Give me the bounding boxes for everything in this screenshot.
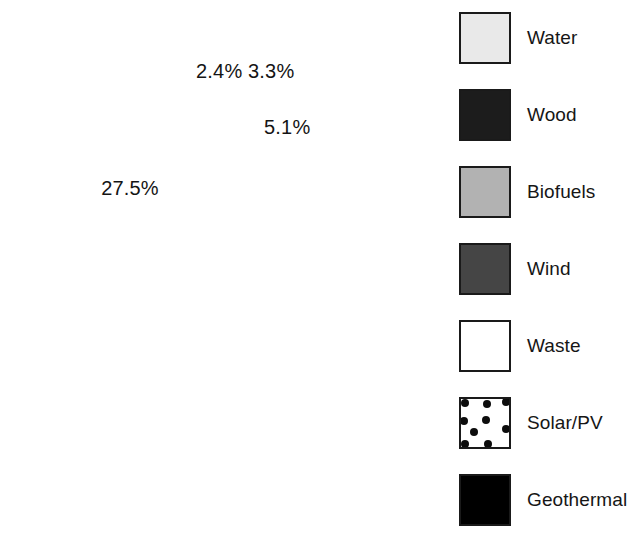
slice-value-wind: 17.2% [271,207,329,229]
legend-label-biofuels: Biofuels [527,181,595,203]
legend-swatch-water [459,12,511,64]
slice-value-biofuels: 21.5% [243,340,301,362]
legend-swatch-biofuels [459,166,511,218]
legend-label-geothermal: Geothermal [527,489,627,511]
legend-item-geothermal[interactable]: Geothermal [459,472,627,528]
legend-item-biofuels[interactable]: Biofuels [459,164,595,220]
pie-plot-area: 17.2%21.5%23.0%27.5% 2.4%3.3%5.1% [0,0,440,556]
legend-swatch-wood [459,89,511,141]
slice-value-solar-pv: 3.3% [248,60,294,83]
legend-swatch-waste [459,320,511,372]
slice-value-water: 27.5% [101,177,159,199]
legend-label-wind: Wind [527,258,571,280]
legend-item-water[interactable]: Water [459,10,577,66]
slice-value-wood: 23.0% [112,340,170,362]
legend-item-solar-pv[interactable]: Solar/PV [459,395,603,451]
legend-label-solar-pv: Solar/PV [527,412,603,434]
legend-item-wind[interactable]: Wind [459,241,571,297]
legend-label-water: Water [527,27,577,49]
legend-label-wood: Wood [527,104,577,126]
slice-value-geothermal: 2.4% [196,60,242,83]
legend-swatch-geothermal [459,474,511,526]
legend-swatch-solar-pv [459,397,511,449]
pie-svg: 17.2%21.5%23.0%27.5% [0,0,440,556]
legend-swatch-wind [459,243,511,295]
legend-item-wood[interactable]: Wood [459,87,577,143]
legend-label-waste: Waste [527,335,581,357]
slice-value-waste: 5.1% [264,116,310,139]
legend-item-waste[interactable]: Waste [459,318,581,374]
pie-inside-labels: 17.2%21.5%23.0%27.5% [101,177,329,362]
chart-legend: WaterWoodBiofuelsWindWasteSolar/PVGeothe… [459,0,625,556]
